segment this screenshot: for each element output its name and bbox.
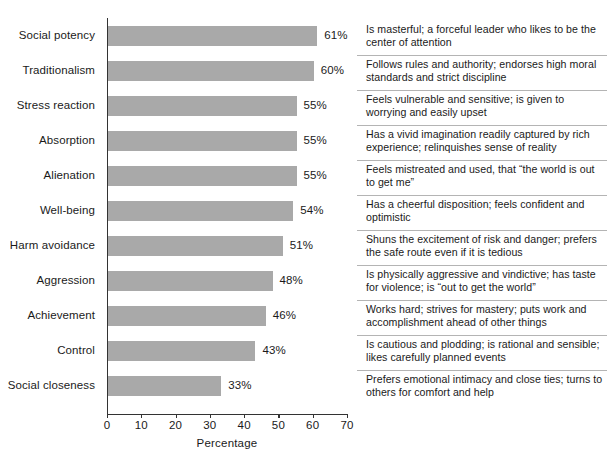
personality-traits-bar-chart: 010203040506070 Percentage Social potenc… [0,0,610,472]
chart-row: Social closeness33%Prefers emotional int… [0,370,610,405]
bar [108,61,314,81]
x-tick-mark [278,414,279,418]
description-separator [357,370,607,371]
chart-row: Traditionalism60%Follows rules and autho… [0,55,610,90]
category-label: Control [0,344,95,356]
description-separator [357,335,607,336]
x-tick-mark [244,414,245,418]
trait-description: Has a vivid imagination readily captured… [366,128,604,154]
chart-row: Absorption55%Has a vivid imagination rea… [0,125,610,160]
chart-row: Achievement46%Works hard; strives for ma… [0,300,610,335]
bar-value-label: 48% [280,274,303,286]
category-label: Social closeness [0,379,95,391]
bar-value-label: 55% [304,169,327,181]
bar [108,376,221,396]
x-tick-mark [107,414,108,418]
description-separator [357,55,607,56]
category-label: Well-being [0,204,95,216]
x-tick-mark [347,414,348,418]
category-label: Absorption [0,134,95,146]
x-tick-mark [141,414,142,418]
bar [108,166,297,186]
x-tick-label: 50 [272,419,285,431]
description-separator [357,195,607,196]
bar-value-label: 61% [324,29,347,41]
category-label: Traditionalism [0,64,95,76]
category-label: Aggression [0,274,95,286]
chart-row: Control43%Is cautious and plodding; is r… [0,335,610,370]
bar-value-label: 51% [290,239,313,251]
chart-row: Harm avoidance51%Shuns the excitement of… [0,230,610,265]
bar-value-label: 55% [304,99,327,111]
bar [108,306,266,326]
x-tick-label: 10 [135,419,148,431]
trait-description: Is masterful; a forceful leader who like… [366,23,604,49]
description-separator [357,265,607,266]
trait-description: Is cautious and plodding; is rational an… [366,338,604,364]
description-separator [357,125,607,126]
description-separator [357,230,607,231]
description-separator [357,160,607,161]
trait-description: Follows rules and authority; endorses hi… [366,58,604,84]
x-tick-label: 0 [104,419,111,431]
x-axis-title: Percentage [197,437,258,449]
bar [108,96,297,116]
x-tick-label: 30 [203,419,216,431]
x-tick-label: 40 [238,419,251,431]
description-separator [357,90,607,91]
chart-row: Stress reaction55%Feels vulnerable and s… [0,90,610,125]
trait-description: Has a cheerful disposition; feels confid… [366,198,604,224]
bar [108,131,297,151]
bar [108,271,273,291]
category-label: Achievement [0,309,95,321]
bar-value-label: 54% [300,204,323,216]
x-tick-mark [210,414,211,418]
x-tick-label: 20 [169,419,182,431]
category-label: Stress reaction [0,99,95,111]
chart-row: Social potency61%Is masterful; a forcefu… [0,20,610,55]
trait-description: Is physically aggressive and vindictive;… [366,268,604,294]
chart-row: Well-being54%Has a cheerful disposition;… [0,195,610,230]
category-label: Harm avoidance [0,239,95,251]
chart-row: Aggression48%Is physically aggressive an… [0,265,610,300]
x-tick-label: 70 [340,419,353,431]
bar-value-label: 46% [273,309,296,321]
trait-description: Feels mistreated and used, that “the wor… [366,163,604,189]
trait-description: Works hard; strives for mastery; puts wo… [366,303,604,329]
bar [108,341,255,361]
category-label: Alienation [0,169,95,181]
trait-description: Prefers emotional intimacy and close tie… [366,373,604,399]
bar [108,201,293,221]
plot-area: 010203040506070 Percentage Social potenc… [0,0,610,472]
bar-value-label: 33% [228,379,251,391]
trait-description: Feels vulnerable and sensitive; is given… [366,93,604,119]
bar-value-label: 55% [304,134,327,146]
x-axis-line [107,414,347,415]
bar [108,236,283,256]
trait-description: Shuns the excitement of risk and danger;… [366,233,604,259]
category-label: Social potency [0,29,95,41]
bar [108,26,317,46]
bar-value-label: 60% [321,64,344,76]
chart-row: Alienation55%Feels mistreated and used, … [0,160,610,195]
x-tick-label: 60 [306,419,319,431]
bar-value-label: 43% [262,344,285,356]
x-tick-mark [176,414,177,418]
x-tick-mark [313,414,314,418]
description-separator [357,300,607,301]
